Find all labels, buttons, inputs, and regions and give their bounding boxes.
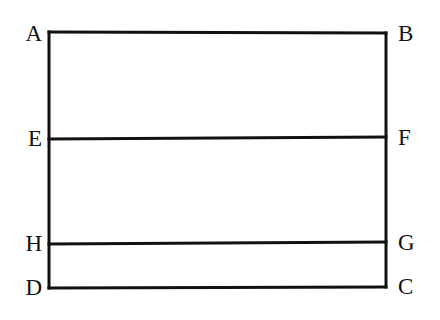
segment-ef xyxy=(49,137,386,139)
segment-hg xyxy=(49,242,386,244)
vertex-label-a: A xyxy=(8,22,42,45)
geometry-figure-canvas: A E H D B F G C xyxy=(0,0,440,320)
vertex-label-h: H xyxy=(8,232,42,255)
vertex-label-g: G xyxy=(398,231,432,254)
vertex-label-d: D xyxy=(8,276,42,299)
vertex-label-f: F xyxy=(398,126,432,149)
vertex-label-c: C xyxy=(398,275,432,298)
vertex-label-b: B xyxy=(398,22,432,45)
segment-ab xyxy=(49,32,386,33)
geometry-figure-svg xyxy=(0,0,440,320)
segment-cd xyxy=(49,287,386,288)
vertex-label-e: E xyxy=(8,127,42,150)
